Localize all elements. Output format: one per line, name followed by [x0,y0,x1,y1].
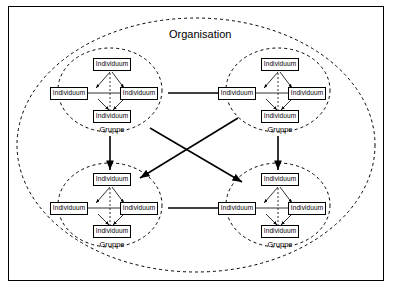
organisation-title: Organisation [169,28,231,40]
node-individuum-bottom-left-right[interactable]: Individuum [120,202,158,215]
node-individuum-bottom-left-left[interactable]: Individuum [50,202,88,215]
node-individuum-bottom-right-bottom[interactable]: Individuum [261,225,299,238]
group-label-top-right: Gruppe [263,125,297,134]
node-individuum-bottom-right-top[interactable]: Individuum [261,173,299,186]
node-individuum-top-left-top[interactable]: Individuum [93,58,131,71]
node-individuum-top-right-bottom[interactable]: Individuum [261,110,299,123]
node-individuum-bottom-left-bottom[interactable]: Individuum [93,225,131,238]
organisation-boundary [17,18,375,272]
group-label-top-left: Gruppe [95,125,129,134]
links-inter-group [110,93,278,208]
node-individuum-bottom-left-top[interactable]: Individuum [93,173,131,186]
links-group-bottom-right [252,187,292,225]
node-individuum-top-left-bottom[interactable]: Individuum [93,110,131,123]
links-group-top-right [252,72,292,110]
diagram-stage: Organisation Individuum Individuum Indiv… [0,0,393,288]
node-individuum-top-right-right[interactable]: Individuum [288,87,326,100]
node-individuum-top-left-right[interactable]: Individuum [120,87,158,100]
node-individuum-top-right-top[interactable]: Individuum [261,58,299,71]
links-group-bottom-left [84,187,124,225]
links-group-top-left [84,72,124,110]
group-label-bottom-right: Gruppe [263,240,297,249]
node-individuum-bottom-right-left[interactable]: Individuum [218,202,256,215]
node-individuum-bottom-right-right[interactable]: Individuum [288,202,326,215]
node-individuum-top-right-left[interactable]: Individuum [218,87,256,100]
node-individuum-top-left-left[interactable]: Individuum [50,87,88,100]
group-label-bottom-left: Gruppe [95,240,129,249]
diagram-canvas [0,0,393,288]
